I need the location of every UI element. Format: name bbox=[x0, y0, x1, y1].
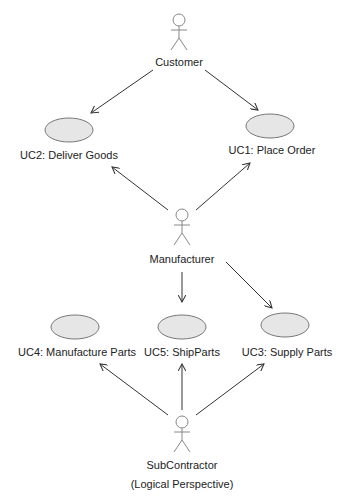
usecase-uc4-label: UC4: Manufacture Parts bbox=[18, 346, 136, 359]
assoc-customer-uc2-arrow bbox=[91, 70, 153, 113]
usecase-uc5-label: UC5: ShipParts bbox=[144, 346, 220, 359]
actor-subcontractor-sublabel: (Logical Perspective) bbox=[131, 478, 234, 491]
actor-subcontractor-label: SubContractor bbox=[147, 459, 218, 472]
assoc-manufacturer-uc1-arrow bbox=[196, 163, 250, 210]
actor-customer-label: Customer bbox=[155, 56, 203, 69]
assoc-subcontractor-uc3-arrow bbox=[196, 364, 264, 415]
actor-subcontractor-icon bbox=[174, 416, 190, 452]
usecase-uc3-label: UC3: Supply Parts bbox=[242, 346, 332, 359]
actor-manufacturer-icon bbox=[174, 209, 190, 245]
actor-manufacturer-label: Manufacturer bbox=[150, 253, 215, 266]
assoc-manufacturer-uc3-arrow bbox=[226, 262, 272, 308]
assoc-customer-uc1-arrow bbox=[205, 70, 258, 110]
assoc-manufacturer-uc2-arrow bbox=[112, 167, 168, 210]
usecase-uc1-label: UC1: Place Order bbox=[229, 144, 316, 157]
assoc-subcontractor-uc4-arrow bbox=[100, 364, 168, 415]
usecase-uc3-ellipse[interactable] bbox=[261, 313, 309, 337]
actor-customer-icon bbox=[171, 14, 187, 50]
usecase-uc2-ellipse[interactable] bbox=[45, 118, 93, 142]
use-case-diagram-canvas bbox=[0, 0, 344, 498]
usecase-uc5-ellipse[interactable] bbox=[158, 315, 206, 339]
usecase-uc2-label: UC2: Deliver Goods bbox=[20, 149, 118, 162]
usecase-uc1-ellipse[interactable] bbox=[246, 114, 294, 138]
usecase-uc4-ellipse[interactable] bbox=[51, 315, 99, 339]
